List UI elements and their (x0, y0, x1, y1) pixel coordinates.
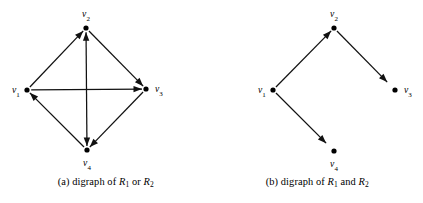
edges-group-a (30, 31, 143, 147)
vertex-v3 (143, 86, 148, 91)
vertex-label-v3: v3 (155, 83, 163, 98)
vertex-label-v1: v1 (258, 84, 266, 99)
labels-group-b: v1v2v3v4 (258, 8, 412, 173)
vertex-label-v3: v3 (404, 84, 412, 99)
edge-v2-v4 (86, 32, 87, 146)
vertices-group-b (270, 25, 397, 153)
arrowhead-v1-to-v3 (133, 86, 142, 92)
vertex-v4 (84, 147, 89, 152)
edge-v4-v1 (30, 93, 84, 147)
vertex-label-v4: v4 (83, 157, 91, 172)
edge-v2-v3 (89, 31, 143, 86)
edge-v1-v2 (275, 31, 330, 87)
caption-b-prefix: (b) digraph of (266, 176, 328, 187)
caption-b-r2-sub: 2 (365, 180, 369, 189)
caption-a-prefix: (a) digraph of (58, 176, 119, 187)
panel-b: v1v2v3v4 (b) digraph of R1 and R2 (212, 0, 423, 203)
caption-a-conjunction: or (129, 176, 143, 187)
vertex-label-v1: v1 (12, 84, 20, 99)
edge-v3-v4 (90, 92, 143, 147)
arrowhead-v4-to-v2 (83, 32, 89, 41)
vertex-label-v2: v2 (330, 8, 338, 23)
edge-v2-v3 (336, 31, 386, 82)
caption-a-r2-sub: 2 (150, 180, 154, 189)
caption-b-conjunction: and (338, 176, 359, 187)
figure-container: v1v2v3v4 (a) digraph of R1 or R2 v1v2v3v… (0, 0, 423, 203)
vertex-v1 (270, 87, 275, 92)
digraph-b: v1v2v3v4 (212, 0, 423, 175)
vertex-v2 (331, 25, 336, 30)
arrowhead-v2-to-v4 (84, 137, 90, 146)
vertex-v1 (24, 87, 29, 92)
vertex-label-v4: v4 (330, 158, 338, 173)
edge-v1-v4 (275, 93, 325, 143)
panel-a: v1v2v3v4 (a) digraph of R1 or R2 (0, 0, 212, 203)
caption-b: (b) digraph of R1 and R2 (212, 176, 423, 189)
vertex-v4 (331, 148, 336, 153)
vertex-v2 (83, 25, 88, 30)
edges-group-b (275, 31, 386, 143)
edge-v1-v2 (30, 31, 83, 87)
digraph-a: v1v2v3v4 (0, 0, 212, 175)
caption-a: (a) digraph of R1 or R2 (0, 176, 212, 189)
vertex-label-v2: v2 (82, 8, 90, 23)
vertex-v3 (392, 87, 397, 92)
